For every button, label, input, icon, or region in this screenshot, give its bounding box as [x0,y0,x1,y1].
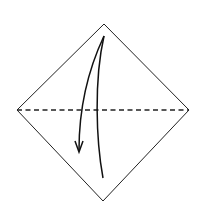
origami-diagram [0,0,208,209]
